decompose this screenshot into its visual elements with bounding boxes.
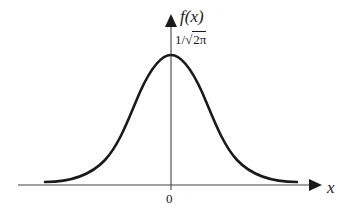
normal-distribution-diagram: f(x) 1/√2π 0 x bbox=[0, 0, 355, 213]
peak-label-radicand: 2π bbox=[192, 31, 206, 47]
y-axis-label: f(x) bbox=[180, 8, 204, 25]
peak-value-label: 1/√2π bbox=[175, 33, 206, 46]
origin-tick-label: 0 bbox=[166, 192, 173, 205]
peak-label-prefix: 1/ bbox=[175, 32, 185, 47]
x-axis-label: x bbox=[327, 179, 335, 196]
y-axis-arrow-icon bbox=[165, 14, 177, 27]
x-axis-arrow-icon bbox=[309, 179, 322, 191]
